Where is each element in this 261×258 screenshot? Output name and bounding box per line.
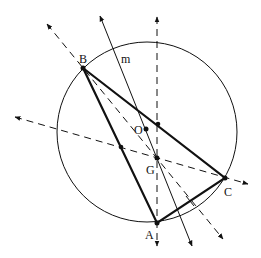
- label-o: O: [134, 123, 143, 137]
- label-b: B: [79, 52, 87, 66]
- midpoint-bc: [156, 122, 161, 127]
- geometry-diagram: B m O G C A: [0, 0, 261, 258]
- point-b: [81, 66, 86, 71]
- point-g: [155, 156, 160, 161]
- label-m: m: [121, 52, 131, 66]
- triangle-abc: [83, 68, 225, 223]
- midpoint-ab: [119, 145, 124, 150]
- point-o: [144, 127, 149, 132]
- point-a: [155, 221, 160, 226]
- tick-mark-ac: [186, 196, 194, 206]
- point-c: [223, 176, 228, 181]
- label-a: A: [145, 228, 154, 242]
- label-g: G: [146, 163, 155, 177]
- label-c: C: [224, 185, 232, 199]
